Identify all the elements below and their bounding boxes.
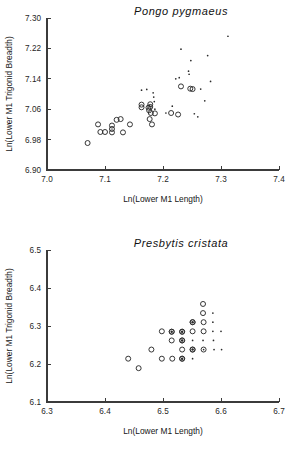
y-tick-label: 6.2 <box>30 360 42 369</box>
data-point-dot <box>210 81 212 83</box>
data-point-dot <box>200 88 202 90</box>
x-axis-title: Ln(Lower M1 Length) <box>123 194 203 204</box>
x-tick-label: 6.6 <box>215 407 227 416</box>
data-point-open-circle <box>170 356 175 361</box>
data-point-dot <box>180 48 182 50</box>
pongo-axes-group: 6.906.987.067.147.227.307.07.17.27.37.4P… <box>4 5 285 204</box>
x-axis-title: Ln(Lower M1 Length) <box>123 426 203 436</box>
series-small-dot <box>192 312 223 359</box>
data-point-open-circle <box>169 111 174 116</box>
presbytis-plot-canvas: 6.16.26.36.46.56.36.46.56.66.7Presbytis … <box>0 232 302 464</box>
data-point-open-circle <box>109 130 114 135</box>
data-point-dot <box>212 330 214 332</box>
data-point-dot <box>188 70 190 72</box>
data-point-dot <box>213 340 215 342</box>
y-tick-label: 6.90 <box>25 166 41 175</box>
data-point-open-circle <box>85 141 90 146</box>
presbytis-axes-group: 6.16.26.36.46.56.36.46.56.66.7Presbytis … <box>4 237 285 436</box>
data-point-dot <box>213 349 215 351</box>
data-point-dot <box>165 112 167 114</box>
y-tick-label: 6.5 <box>30 246 42 255</box>
series-bullseye <box>169 320 195 361</box>
x-tick-label: 7.0 <box>41 175 53 184</box>
data-point-open-circle <box>147 117 152 122</box>
data-point-open-circle <box>149 122 154 127</box>
y-tick-label: 6.4 <box>30 284 42 293</box>
x-tick-label: 7.1 <box>99 175 111 184</box>
series-open-circle <box>85 84 195 146</box>
data-point-bullseye-core <box>181 330 184 333</box>
data-point-bullseye-core <box>191 321 194 324</box>
series-open-circle <box>126 301 206 370</box>
x-tick-label: 7.3 <box>215 175 227 184</box>
data-point-open-circle <box>178 84 183 89</box>
data-point-open-circle <box>159 356 164 361</box>
scatter-plot-pongo-pygmaeus: 6.906.987.067.147.227.307.07.17.27.37.4P… <box>0 0 302 232</box>
data-point-dot <box>212 312 214 314</box>
data-point-dot <box>154 108 156 110</box>
data-point-open-circle <box>201 301 206 306</box>
data-point-open-circle <box>127 122 132 127</box>
data-point-dot <box>204 100 206 102</box>
data-point-open-circle <box>126 356 131 361</box>
data-point-bullseye-core <box>181 357 184 360</box>
pongo-plot-canvas: 6.906.987.067.147.227.307.07.17.27.37.4P… <box>0 0 302 232</box>
data-point-dot <box>190 60 192 62</box>
data-point-dot <box>207 55 209 57</box>
axis-spines <box>47 250 279 402</box>
x-tick-label: 7.4 <box>273 175 285 184</box>
data-point-dot <box>203 349 205 351</box>
data-point-bullseye-core <box>191 348 194 351</box>
data-point-dot <box>188 73 190 75</box>
data-point-open-circle <box>180 347 185 352</box>
data-point-open-circle <box>159 329 164 334</box>
data-point-open-circle <box>96 122 101 127</box>
y-axis-title: Ln(Lower M1 Trigonid Breadth) <box>4 268 14 384</box>
data-point-dot <box>221 349 223 351</box>
data-point-dot <box>152 92 154 94</box>
data-point-dot <box>153 101 155 103</box>
data-point-open-circle <box>201 320 206 325</box>
y-tick-label: 7.22 <box>25 44 41 53</box>
data-point-open-circle <box>149 347 154 352</box>
data-point-open-circle <box>201 329 206 334</box>
data-point-dot <box>220 330 222 332</box>
data-point-dot <box>146 89 148 91</box>
data-point-dot <box>227 35 229 37</box>
series-small-dot <box>141 35 229 117</box>
data-point-dot <box>153 96 155 98</box>
y-tick-label: 7.30 <box>25 14 41 23</box>
data-point-dot <box>178 77 180 79</box>
axis-spines <box>47 18 279 170</box>
y-tick-label: 7.14 <box>25 75 41 84</box>
y-tick-label: 6.1 <box>30 398 42 407</box>
data-point-dot <box>212 321 214 323</box>
data-point-bullseye-core <box>170 330 173 333</box>
data-point-dot <box>171 105 173 107</box>
data-point-dot <box>175 78 177 80</box>
y-tick-label: 7.06 <box>25 105 41 114</box>
data-point-open-circle <box>190 329 195 334</box>
plot-title: Presbytis cristata <box>134 237 229 249</box>
data-point-dot <box>141 89 143 91</box>
data-point-bullseye-core <box>181 339 184 342</box>
plot-title: Pongo pygmaeus <box>134 5 228 17</box>
data-point-dot <box>197 116 199 118</box>
x-tick-label: 6.3 <box>41 407 53 416</box>
x-tick-label: 6.5 <box>157 407 169 416</box>
data-point-open-circle <box>120 130 125 135</box>
data-point-open-circle <box>136 366 141 371</box>
x-tick-label: 7.2 <box>157 175 169 184</box>
data-point-open-circle <box>176 112 181 117</box>
data-point-dot <box>192 340 194 342</box>
y-tick-label: 6.3 <box>30 322 42 331</box>
data-point-dot <box>192 358 194 360</box>
data-point-open-circle <box>169 338 174 343</box>
x-tick-label: 6.7 <box>273 407 285 416</box>
data-point-open-circle <box>201 311 206 316</box>
x-tick-label: 6.4 <box>99 407 111 416</box>
scatter-plot-presbytis-cristata: 6.16.26.36.46.56.36.46.56.66.7Presbytis … <box>0 232 302 464</box>
data-point-dot <box>202 340 204 342</box>
data-point-dot <box>193 113 195 115</box>
y-tick-label: 6.98 <box>25 136 41 145</box>
